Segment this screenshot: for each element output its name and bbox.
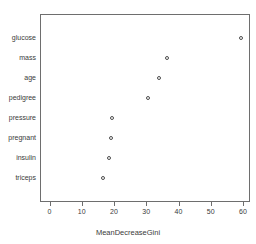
category-label-pregnant: pregnant <box>8 134 36 142</box>
x-tick-label-10: 10 <box>78 208 86 215</box>
data-point-age <box>157 76 161 80</box>
category-label-pedigree: pedigree <box>9 94 36 102</box>
data-point-triceps <box>101 176 105 180</box>
x-tick-label-60: 60 <box>239 208 247 215</box>
x-tick-label-0: 0 <box>48 208 52 215</box>
plot-area <box>40 14 250 202</box>
x-tick-label-30: 30 <box>142 208 150 215</box>
data-point-mass <box>165 56 169 60</box>
category-axis-labels: glucosemassagepedigreepressurepregnantin… <box>0 0 36 244</box>
x-tick-mark-60 <box>243 202 244 206</box>
data-point-glucose <box>239 36 243 40</box>
x-tick-mark-0 <box>50 202 51 206</box>
category-label-insulin: insulin <box>16 154 36 162</box>
variable-importance-dotchart: glucosemassagepedigreepressurepregnantin… <box>0 0 256 244</box>
category-label-triceps: triceps <box>15 174 36 182</box>
data-point-pregnant <box>109 136 113 140</box>
x-tick-mark-10 <box>82 202 83 206</box>
category-label-mass: mass <box>19 54 36 62</box>
data-point-insulin <box>107 156 111 160</box>
category-label-glucose: glucose <box>12 34 36 42</box>
data-point-pedigree <box>146 96 150 100</box>
x-tick-mark-20 <box>114 202 115 206</box>
x-tick-mark-40 <box>179 202 180 206</box>
data-point-pressure <box>110 116 114 120</box>
x-tick-label-20: 20 <box>110 208 118 215</box>
x-tick-label-50: 50 <box>207 208 215 215</box>
x-tick-mark-50 <box>211 202 212 206</box>
x-axis-title: MeanDecreaseGini <box>0 228 256 237</box>
x-tick-mark-30 <box>146 202 147 206</box>
x-tick-label-40: 40 <box>175 208 183 215</box>
category-label-pressure: pressure <box>9 114 36 122</box>
category-label-age: age <box>24 74 36 82</box>
